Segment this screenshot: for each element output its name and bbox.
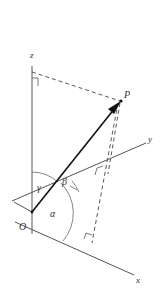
- gamma-label: γ: [37, 182, 42, 193]
- alpha-arc: [61, 183, 73, 241]
- z-axis-label: z: [29, 50, 34, 60]
- vector-op: [32, 108, 115, 212]
- right-angle-x: [84, 233, 92, 239]
- arrowhead-icon: [108, 101, 121, 114]
- dashed-z-projection: [32, 72, 120, 101]
- direction-angles-diagram: z y x O P γ β α: [0, 0, 162, 288]
- y-axis-label: y: [147, 134, 152, 144]
- point-p-label: P: [123, 89, 130, 100]
- right-angle-z: [32, 78, 38, 86]
- gamma-arc: [32, 172, 58, 182]
- x-axis: [15, 222, 134, 275]
- origin-point: [31, 211, 34, 214]
- alpha-label: α: [50, 208, 56, 219]
- right-angle-y: [95, 166, 103, 175]
- origin-label: O: [19, 221, 26, 232]
- x-axis-label: x: [135, 275, 140, 285]
- point-p: [119, 99, 122, 102]
- beta-label: β: [61, 176, 67, 187]
- x-axis-back: [14, 202, 32, 212]
- beta-arc-outer: [72, 181, 79, 192]
